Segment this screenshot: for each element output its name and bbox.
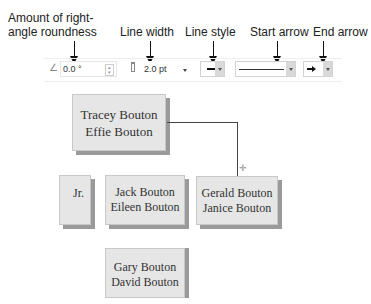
callout-start-arrow: Start arrow	[250, 25, 309, 39]
line-style-dropdown[interactable]	[200, 61, 225, 77]
box-line: Gary Bouton	[106, 260, 184, 275]
box-line: Gerald Bouton	[197, 186, 277, 201]
connector-vertical[interactable]	[237, 122, 238, 176]
callout-line-style: Line style	[185, 25, 236, 39]
box-line: Jack Bouton	[106, 185, 184, 200]
start-arrow-dropdown-button[interactable]	[286, 62, 295, 76]
org-box-tracey-effie[interactable]: Tracey Bouton Effie Bouton	[72, 94, 166, 151]
box-line: Jr.	[60, 185, 84, 201]
line-width-value: 2.0 pt	[144, 64, 167, 74]
callout-roundness-line2: angle roundness	[8, 25, 97, 39]
org-box-jr[interactable]: Jr.	[59, 175, 91, 225]
roundness-spinner[interactable]: 0.0 ° ▴▾	[60, 61, 117, 77]
callout-line-width: Line width	[120, 25, 174, 39]
end-arrow-dropdown-button[interactable]	[323, 62, 332, 76]
box-line: David Bouton	[106, 275, 184, 290]
box-line: Janice Bouton	[197, 201, 277, 216]
move-cursor-icon: ✛	[239, 164, 247, 173]
chevron-down-icon	[183, 69, 187, 72]
callout-end-arrow: End arrow	[313, 25, 368, 39]
line-width-dropdown[interactable]: 2.0 pt	[140, 61, 192, 77]
box-line: Effie Bouton	[73, 123, 165, 140]
box-line: Tracey Bouton	[73, 106, 165, 123]
line-style-dropdown-button[interactable]	[215, 62, 224, 76]
roundness-icon: ∠	[49, 62, 58, 73]
line-style-solid-icon	[207, 68, 215, 70]
line-width-icon	[131, 62, 135, 72]
box-line: Eileen Bouton	[106, 200, 184, 215]
roundness-value: 0.0 °	[63, 64, 82, 74]
callout-roundness-line1: Amount of right-	[8, 11, 93, 25]
spinner-updown-icon[interactable]: ▴▾	[105, 64, 114, 76]
org-box-gerald-janice[interactable]: Gerald Bouton Janice Bouton	[196, 176, 278, 225]
start-arrow-dropdown[interactable]	[235, 61, 296, 77]
org-box-jack-eileen[interactable]: Jack Bouton Eileen Bouton	[105, 175, 185, 225]
org-box-gary-david[interactable]: Gary Bouton David Bouton	[105, 248, 185, 298]
end-arrow-head-icon	[312, 66, 316, 72]
connector-horizontal[interactable]	[167, 122, 238, 123]
end-arrow-dropdown[interactable]	[303, 61, 333, 77]
start-arrow-none-icon	[239, 69, 284, 70]
